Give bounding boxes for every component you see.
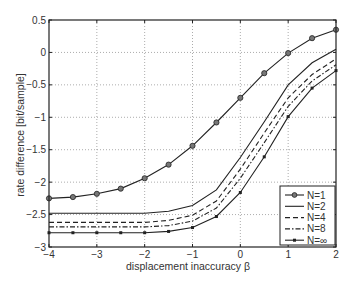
marker-dot xyxy=(263,155,266,158)
marker-circle xyxy=(70,194,75,199)
y-tick-label: 0 xyxy=(40,47,46,58)
y-tick-label: −2 xyxy=(35,177,47,188)
marker-dot xyxy=(143,231,146,234)
marker-circle xyxy=(262,71,267,76)
legend: N=1N=2N=4N=8N=∞ xyxy=(280,186,335,246)
legend-marker xyxy=(293,239,296,242)
legend-marker xyxy=(292,193,297,198)
legend-label: N=8 xyxy=(307,223,326,234)
legend-label: N=4 xyxy=(307,212,326,223)
marker-circle xyxy=(118,186,123,191)
x-tick-label: 2 xyxy=(333,249,339,260)
legend-label: N=2 xyxy=(307,201,326,212)
y-tick-label: −0.5 xyxy=(26,79,46,90)
marker-dot xyxy=(215,215,218,218)
y-tick-label: −1 xyxy=(35,112,47,123)
y-axis-label: rate difference [bit/sample] xyxy=(14,73,26,197)
marker-dot xyxy=(71,231,74,234)
marker-circle xyxy=(142,176,147,181)
x-tick-label: −4 xyxy=(43,249,55,260)
x-tick-label: −3 xyxy=(91,249,103,260)
marker-circle xyxy=(214,120,219,125)
marker-circle xyxy=(166,162,171,167)
x-tick-label: 0 xyxy=(238,249,244,260)
marker-circle xyxy=(190,143,195,148)
marker-circle xyxy=(286,50,291,55)
x-axis-label: displacement inaccuracy β xyxy=(126,260,250,272)
line-chart: 0.50−0.5−1−1.5−2−2.5−3 −4−3−2−1012 displ… xyxy=(0,0,357,282)
marker-circle xyxy=(238,95,243,100)
x-tick-label: −1 xyxy=(187,249,199,260)
marker-dot xyxy=(95,231,98,234)
marker-dot xyxy=(239,191,242,194)
x-tick-label: 1 xyxy=(285,249,291,260)
y-tick-label: −1.5 xyxy=(26,144,46,155)
marker-dot xyxy=(287,115,290,118)
legend-label: N=∞ xyxy=(307,235,327,246)
x-tick-label: −2 xyxy=(139,249,151,260)
marker-circle xyxy=(94,191,99,196)
marker-circle xyxy=(309,36,314,41)
marker-dot xyxy=(119,231,122,234)
y-tick-label: 0.5 xyxy=(32,15,46,26)
marker-dot xyxy=(191,226,194,229)
legend-label: N=1 xyxy=(307,190,326,201)
marker-dot xyxy=(167,230,170,233)
y-tick-label: −2.5 xyxy=(26,209,46,220)
marker-dot xyxy=(311,87,314,90)
